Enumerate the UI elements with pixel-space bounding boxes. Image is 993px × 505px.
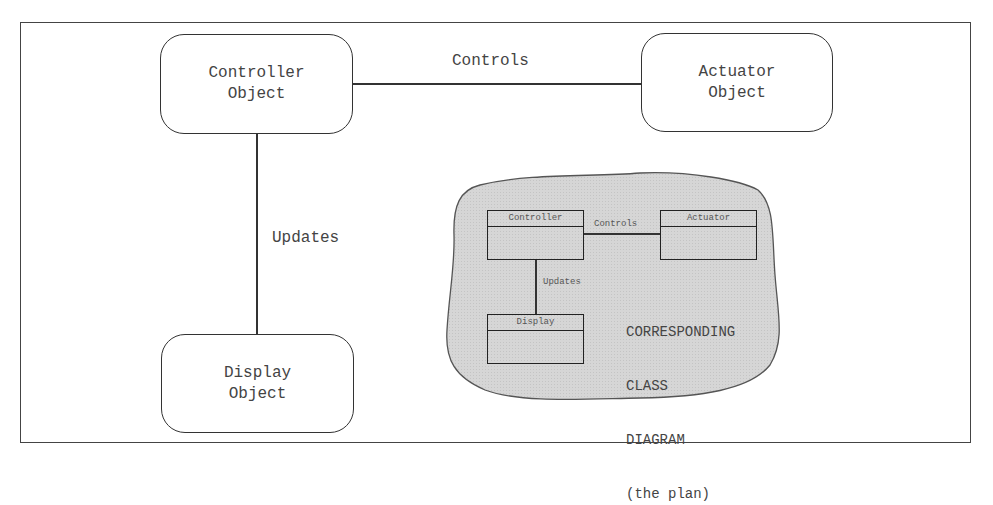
display-object: Display Object bbox=[161, 334, 354, 433]
display-object-kind: Object bbox=[229, 384, 287, 405]
class-controls-label: Controls bbox=[594, 219, 637, 229]
controls-link-line bbox=[352, 83, 642, 85]
class-updates-line bbox=[535, 260, 537, 314]
actuator-object: Actuator Object bbox=[641, 33, 833, 132]
class-controller: Controller bbox=[487, 210, 584, 260]
updates-link-label: Updates bbox=[272, 229, 339, 247]
class-actuator-name: Actuator bbox=[661, 211, 756, 227]
class-display: Display bbox=[487, 314, 584, 364]
class-display-name: Display bbox=[488, 315, 583, 331]
controller-object: Controller Object bbox=[160, 34, 353, 134]
caption-line-2: CLASS bbox=[626, 377, 735, 395]
actuator-object-kind: Object bbox=[708, 83, 766, 104]
controller-object-name: Controller bbox=[208, 63, 304, 84]
updates-link-line bbox=[256, 134, 258, 334]
actuator-object-name: Actuator bbox=[699, 62, 776, 83]
class-updates-label: Updates bbox=[543, 277, 581, 287]
caption-line-3: DIAGRAM bbox=[626, 431, 735, 449]
class-actuator: Actuator bbox=[660, 210, 757, 260]
class-diagram-caption: CORRESPONDING CLASS DIAGRAM (the plan) bbox=[626, 287, 735, 505]
class-controller-name: Controller bbox=[488, 211, 583, 227]
caption-line-4: (the plan) bbox=[626, 485, 735, 503]
controller-object-kind: Object bbox=[228, 84, 286, 105]
class-controls-line bbox=[583, 233, 660, 235]
class-diagram-cloud bbox=[440, 165, 790, 410]
display-object-name: Display bbox=[224, 363, 291, 384]
caption-line-1: CORRESPONDING bbox=[626, 323, 735, 341]
controls-link-label: Controls bbox=[452, 52, 529, 70]
